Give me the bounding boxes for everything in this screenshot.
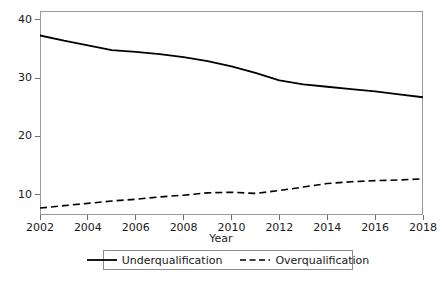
y-axis-tick: 20 xyxy=(18,129,40,143)
legend-item-underqualification[interactable]: Underqualification xyxy=(87,254,223,267)
plot-lines xyxy=(40,11,423,215)
series-line-underqualification xyxy=(40,35,423,97)
y-axis-tick: 30 xyxy=(18,71,40,85)
legend-item-overqualification[interactable]: Overqualification xyxy=(240,254,369,267)
y-axis-tick: 10 xyxy=(18,188,40,202)
x-axis-tick-mark xyxy=(87,215,88,220)
x-axis-tick-mark xyxy=(423,215,424,220)
x-axis-title: Year xyxy=(0,232,442,245)
y-axis-tick-mark xyxy=(35,194,40,195)
legend-label-underqualification: Underqualification xyxy=(122,254,223,267)
y-axis-tick: 40 xyxy=(18,13,40,27)
x-axis-tick-mark xyxy=(183,215,184,220)
line-chart: 10203040 2002200420062008201020122014201… xyxy=(0,0,442,281)
y-axis-tick-mark xyxy=(35,78,40,79)
x-axis-tick-mark xyxy=(135,215,136,220)
x-axis-tick-mark xyxy=(231,215,232,220)
x-axis-tick-mark xyxy=(327,215,328,220)
x-axis-tick-mark xyxy=(40,215,41,220)
x-axis-tick-mark xyxy=(279,215,280,220)
y-axis-tick-mark xyxy=(35,136,40,137)
chart-legend: Underqualification Overqualification xyxy=(103,250,353,270)
series-line-overqualification xyxy=(40,179,423,208)
x-axis-tick-mark xyxy=(375,215,376,220)
y-axis-tick-mark xyxy=(35,19,40,20)
y-axis-tick-label: 10 xyxy=(18,188,32,202)
y-axis-tick-label: 20 xyxy=(18,129,32,143)
y-axis-tick-label: 30 xyxy=(18,71,32,85)
legend-swatch-dashed xyxy=(240,255,270,265)
legend-label-overqualification: Overqualification xyxy=(275,254,369,267)
legend-swatch-solid xyxy=(87,255,117,265)
y-axis-tick-label: 40 xyxy=(18,13,32,27)
